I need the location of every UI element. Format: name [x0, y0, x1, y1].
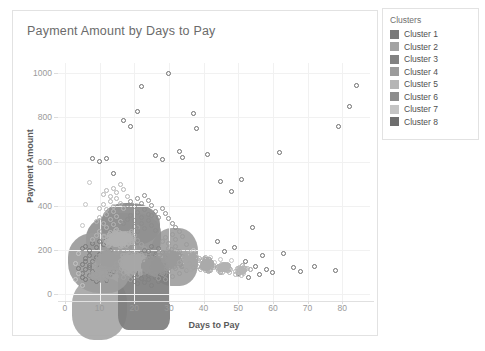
- y-tick-label: 400: [26, 201, 52, 211]
- scatter-point: [218, 257, 223, 262]
- x-axis-label: Days to Pay: [58, 320, 370, 330]
- scatter-point: [80, 223, 85, 228]
- scatter-point: [224, 264, 229, 269]
- scatter-point: [205, 258, 210, 263]
- scatter-point: [209, 261, 214, 266]
- scatter-point: [208, 259, 213, 264]
- scatter-point: [242, 266, 247, 271]
- x-tick-mark: [65, 301, 66, 304]
- y-tick-mark: [54, 294, 58, 295]
- scatter-point: [245, 266, 250, 271]
- scatter-point: [207, 257, 212, 262]
- legend-item-2[interactable]: Cluster 2: [390, 41, 478, 54]
- scatter-point: [212, 260, 217, 265]
- scatter-point: [206, 261, 211, 266]
- scatter-point: [209, 264, 214, 269]
- legend-item-1[interactable]: Cluster 1: [390, 28, 478, 41]
- y-tick-label: 800: [26, 112, 52, 122]
- scatter-point: [240, 263, 245, 268]
- legend-item-7[interactable]: Cluster 7: [390, 103, 478, 116]
- scatter-point: [218, 270, 223, 275]
- legend-item-3[interactable]: Cluster 3: [390, 53, 478, 66]
- scatter-point: [205, 261, 210, 266]
- gridline-vertical: [308, 63, 309, 301]
- scatter-point: [135, 196, 140, 201]
- scatter-point: [218, 269, 223, 274]
- gridline-vertical: [65, 63, 66, 301]
- scatter-point: [207, 260, 212, 265]
- scatter-point: [218, 179, 223, 184]
- scatter-point: [208, 259, 213, 264]
- scatter-point: [153, 153, 158, 158]
- scatter-point: [217, 264, 222, 269]
- scatter-point: [209, 260, 214, 265]
- legend-swatch-icon: [390, 42, 399, 51]
- scatter-point: [114, 190, 119, 195]
- scatter-point: [218, 265, 223, 270]
- scatter-point: [205, 265, 210, 270]
- legend-item-6[interactable]: Cluster 6: [390, 91, 478, 104]
- scatter-point: [177, 149, 182, 154]
- scatter-point: [223, 267, 228, 272]
- scatter-point: [218, 270, 223, 275]
- scatter-point: [216, 264, 221, 269]
- gridline-horizontal: [58, 73, 370, 74]
- scatter-point: [205, 260, 210, 265]
- scatter-point: [216, 268, 221, 273]
- scatter-point: [219, 262, 224, 267]
- legend-swatch-icon: [390, 30, 399, 39]
- scatter-point: [101, 192, 106, 197]
- scatter-point: [248, 267, 253, 272]
- scatter-point: [220, 266, 225, 271]
- scatter-point: [220, 267, 225, 272]
- y-tick-mark: [54, 206, 58, 207]
- scatter-point: [219, 265, 224, 270]
- scatter-point: [242, 268, 247, 273]
- legend-item-label: Cluster 4: [404, 67, 438, 77]
- scatter-point: [223, 264, 228, 269]
- scatter-point: [205, 152, 210, 157]
- scatter-point: [223, 267, 228, 272]
- scatter-point: [241, 269, 246, 274]
- legend-swatch-icon: [390, 92, 399, 101]
- legend-item-8[interactable]: Cluster 8: [390, 116, 478, 129]
- legend-item-5[interactable]: Cluster 5: [390, 78, 478, 91]
- scatter-point: [281, 251, 286, 256]
- scatter-point: [139, 84, 144, 89]
- scatter-point: [225, 268, 230, 273]
- scatter-point: [170, 221, 175, 226]
- scatter-point: [226, 263, 231, 268]
- gridline-vertical: [100, 63, 101, 301]
- scatter-point: [240, 263, 245, 268]
- scatter-point: [222, 263, 227, 268]
- scatter-point: [108, 194, 113, 199]
- scatter-point: [206, 259, 211, 264]
- scatter-point: [240, 267, 245, 272]
- scatter-point: [205, 258, 210, 263]
- x-tick-mark: [204, 301, 205, 304]
- scatter-point: [223, 267, 228, 272]
- scatter-point: [242, 268, 247, 273]
- scatter-point: [240, 269, 245, 274]
- scatter-point: [240, 266, 245, 271]
- legend-item-4[interactable]: Cluster 4: [390, 66, 478, 79]
- gridline-horizontal: [58, 117, 370, 118]
- scatter-point: [220, 266, 225, 271]
- scatter-point: [207, 263, 212, 268]
- scatter-point: [333, 268, 338, 273]
- scatter-point: [246, 275, 251, 280]
- scatter-point: [208, 268, 213, 273]
- scatter-point: [209, 262, 214, 267]
- scatter-point: [205, 268, 210, 273]
- scatter-point: [215, 265, 220, 270]
- scatter-point: [108, 199, 113, 204]
- scatter-point: [218, 267, 223, 272]
- scatter-point: [205, 259, 210, 264]
- y-tick-label: 200: [26, 245, 52, 255]
- scatter-point: [226, 268, 231, 273]
- scatter-point: [205, 263, 210, 268]
- scatter-point: [220, 263, 225, 268]
- scatter-point: [229, 258, 234, 263]
- scatter-point: [219, 267, 224, 272]
- scatter-point: [104, 156, 109, 161]
